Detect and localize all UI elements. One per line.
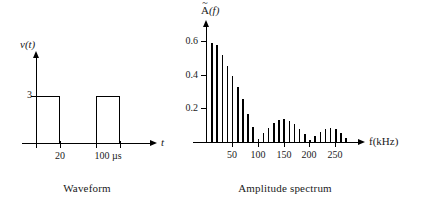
figure-root: v(t) t 3 20 100 µs Waveform ~ (0, 0, 435, 211)
spectrum-x-tick-label-200: 200 (295, 149, 323, 160)
spectrum-bar-220khz (320, 132, 322, 142)
waveform-caption: Waveform (22, 182, 152, 194)
spectrum-bar-100khz (258, 139, 260, 142)
waveform-y-axis-label: v(t) (20, 38, 35, 50)
spectrum-bar-150khz (283, 119, 285, 142)
spectrum-caption: Amplitude spectrum (200, 182, 370, 194)
spectrum-x-tick-label-150: 150 (270, 149, 298, 160)
spectrum-bar-110khz (263, 133, 265, 142)
waveform-pulse-2 (96, 96, 120, 144)
waveform-x-tick-120 (120, 141, 121, 148)
spectrum-panel: ~ A (f) f(kHz) 0.2 0.4 0.6 50 100 150 20… (175, 0, 435, 211)
spectrum-bar-30khz (222, 55, 224, 142)
spectrum-bar-130khz (273, 123, 275, 142)
spectrum-bar-60khz (237, 87, 239, 142)
waveform-x-tick-20 (60, 141, 61, 148)
spectrum-x-tick-label-50: 50 (220, 149, 244, 160)
waveform-x-tick-0 (36, 141, 37, 148)
waveform-y-axis-arrowhead (33, 51, 39, 58)
spectrum-bar-40khz (227, 66, 229, 142)
spectrum-bar-200khz (309, 140, 311, 142)
waveform-x-axis-label: t (161, 136, 164, 148)
waveform-x-tick-label-100us: 100 µs (80, 150, 136, 161)
spectrum-y-tick-label-06: 0.6 (174, 35, 198, 46)
spectrum-y-tick-label-04: 0.4 (174, 69, 198, 80)
spectrum-x-tick-label-250: 250 (321, 149, 349, 160)
spectrum-bar-20khz (216, 45, 218, 142)
spectrum-bar-170khz (294, 124, 296, 142)
spectrum-bar-260khz (340, 133, 342, 142)
spectrum-bars-group (206, 0, 376, 142)
spectrum-bar-270khz (345, 138, 347, 142)
spectrum-bar-230khz (325, 129, 327, 142)
spectrum-bar-70khz (242, 99, 244, 142)
spectrum-bar-80khz (247, 114, 249, 142)
spectrum-bar-120khz (268, 128, 270, 142)
waveform-panel: v(t) t 3 20 100 µs Waveform (0, 0, 180, 211)
spectrum-bar-190khz (304, 134, 306, 142)
spectrum-bar-10khz (211, 43, 213, 142)
spectrum-bar-140khz (278, 120, 280, 142)
spectrum-bar-180khz (299, 129, 301, 142)
spectrum-bar-90khz (252, 127, 254, 142)
spectrum-bar-210khz (314, 136, 316, 142)
waveform-y-tick-label-3: 3 (20, 89, 32, 100)
spectrum-x-tick-label-100: 100 (244, 149, 272, 160)
spectrum-bar-240khz (330, 128, 332, 142)
waveform-x-tick-label-20: 20 (42, 150, 78, 161)
waveform-x-tick-100 (96, 141, 97, 148)
spectrum-y-tick-label-02: 0.2 (174, 102, 198, 113)
waveform-x-axis-arrowhead (150, 140, 157, 146)
spectrum-bar-160khz (289, 121, 291, 142)
waveform-pulse-1 (36, 96, 60, 144)
spectrum-bar-250khz (335, 129, 337, 142)
spectrum-bar-50khz (232, 76, 234, 142)
